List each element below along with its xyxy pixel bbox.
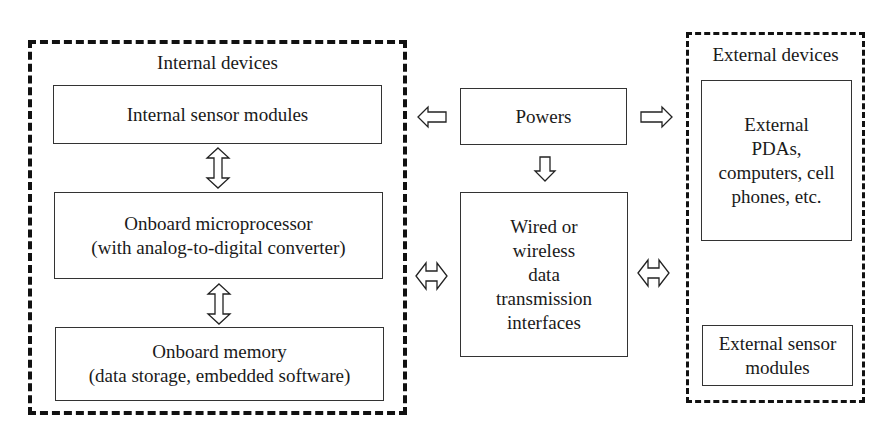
box-line: modules xyxy=(745,356,809,380)
box-line: Onboard memory xyxy=(152,340,287,364)
box-line: Internal sensor modules xyxy=(127,103,309,127)
box-line: Onboard microprocessor xyxy=(124,212,312,236)
double-arrow-vertical-icon xyxy=(205,147,231,189)
box-line: computers, cell xyxy=(718,161,834,185)
box-line: Powers xyxy=(516,105,572,129)
box-line: phones, etc. xyxy=(731,185,821,209)
box-line: (with analog-to-digital converter) xyxy=(91,236,345,260)
box-line: wireless xyxy=(513,239,575,263)
onboard-memory-box: Onboard memory (data storage, embedded s… xyxy=(55,327,384,401)
external-devices-title: External devices xyxy=(686,44,865,66)
double-arrow-horizontal-icon xyxy=(415,262,448,290)
box-line: PDAs, xyxy=(751,137,801,161)
external-sensor-modules-box: External sensor modules xyxy=(702,325,853,386)
box-line: (data storage, embedded software) xyxy=(89,364,351,388)
arrow-right-icon xyxy=(640,106,673,128)
box-line: data xyxy=(528,263,560,287)
internal-devices-title: Internal devices xyxy=(28,52,407,74)
arrow-left-icon xyxy=(417,106,447,128)
arrow-down-icon xyxy=(533,156,557,182)
onboard-microprocessor-box: Onboard microprocessor (with analog-to-d… xyxy=(54,192,383,279)
double-arrow-vertical-icon xyxy=(206,283,232,325)
external-pdas-box: External PDAs, computers, cell phones, e… xyxy=(701,80,852,241)
box-line: transmission xyxy=(496,287,592,311)
powers-box: Powers xyxy=(460,88,627,145)
box-line: External sensor xyxy=(719,332,837,356)
box-line: interfaces xyxy=(507,311,581,335)
double-arrow-horizontal-icon xyxy=(637,259,670,287)
box-line: External xyxy=(744,113,808,137)
internal-sensor-modules-box: Internal sensor modules xyxy=(53,85,382,144)
box-line: Wired or xyxy=(510,215,577,239)
transmission-interfaces-box: Wired or wireless data transmission inte… xyxy=(460,192,628,357)
